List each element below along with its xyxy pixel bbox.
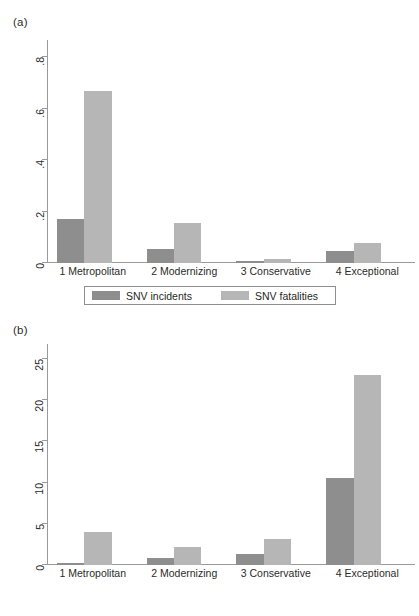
panel-a-category-labels: 1 Metropolitan2 Modernizing3 Conservativ… — [47, 265, 413, 281]
y-axis-tick-label: 15 — [35, 441, 46, 453]
category-label: 2 Modernizing — [139, 265, 231, 281]
category-label: 4 Exceptional — [322, 265, 414, 281]
bar-incidents — [326, 251, 353, 263]
bar-incidents — [236, 261, 263, 263]
bar-incidents — [57, 219, 84, 263]
bar-fatalities — [174, 547, 201, 565]
bar-fatalities — [84, 532, 111, 565]
legend-entry-snv-fatalities: SNV fatalities — [214, 287, 318, 304]
y-axis-tick-label: 20 — [35, 400, 46, 412]
y-axis-tick-label: .2 — [35, 212, 46, 221]
panel-b-plot-area: 0510152025 — [47, 344, 407, 565]
panel-a-legend: SNV incidents SNV fatalities — [84, 286, 336, 305]
panel-a-plot-area: 0.2.4.6.8 — [47, 40, 407, 263]
bar-fatalities — [354, 375, 381, 565]
y-axis-tick-label: 0 — [35, 565, 46, 571]
legend-swatch-icon — [92, 291, 120, 300]
category-label: 4 Exceptional — [322, 567, 414, 583]
figure: (a) 0.2.4.6.8 1 Metropolitan2 Modernizin… — [0, 0, 419, 616]
panel-a-tag: (a) — [13, 16, 28, 28]
bar-fatalities — [264, 539, 291, 565]
bar-incidents — [147, 249, 174, 263]
category-label: 1 Metropolitan — [47, 567, 139, 583]
bar-fatalities — [264, 259, 291, 263]
bar-fatalities — [84, 91, 111, 263]
category-label: 3 Conservative — [230, 265, 322, 281]
panel-b: (b) 0510152025 1 Metropolitan2 Modernizi… — [0, 308, 419, 616]
legend-label: SNV incidents — [126, 290, 192, 302]
bar-incidents — [326, 478, 353, 565]
panel-b-category-labels: 1 Metropolitan2 Modernizing3 Conservativ… — [47, 567, 413, 583]
panel-a: (a) 0.2.4.6.8 1 Metropolitan2 Modernizin… — [0, 0, 419, 308]
bar-fatalities — [174, 223, 201, 263]
bar-fatalities — [354, 243, 381, 263]
category-label: 3 Conservative — [230, 567, 322, 583]
y-axis-tick-label: .6 — [35, 109, 46, 118]
category-label: 1 Metropolitan — [47, 265, 139, 281]
y-axis-tick-label: .8 — [35, 57, 46, 66]
panel-a-bars — [48, 40, 407, 263]
legend-swatch-icon — [221, 291, 249, 300]
y-axis-tick-label: .4 — [35, 160, 46, 169]
bar-incidents — [236, 554, 263, 565]
panel-b-bars — [48, 344, 407, 565]
y-axis-tick-label: 25 — [35, 359, 46, 371]
y-axis-tick-label: 0 — [35, 263, 46, 269]
legend-label: SNV fatalities — [255, 290, 318, 302]
y-axis-tick-label: 10 — [35, 483, 46, 495]
legend-entry-snv-incidents: SNV incidents — [85, 287, 192, 304]
bar-incidents — [147, 558, 174, 565]
bar-incidents — [57, 563, 84, 565]
panel-b-tag: (b) — [13, 324, 28, 336]
category-label: 2 Modernizing — [139, 567, 231, 583]
y-axis-tick-label: 5 — [35, 524, 46, 530]
